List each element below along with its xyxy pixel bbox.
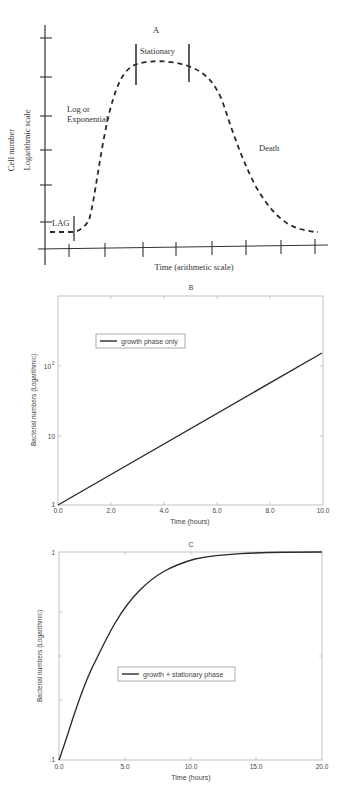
log-label-line1: Log or <box>67 104 90 114</box>
panel-a-y-label-line1: Cell number <box>6 129 16 171</box>
panel-c-legend: growth + stationary phase <box>118 667 235 681</box>
panel-b-ytick-100: 10 <box>44 363 52 370</box>
panel-b-xtick: 8.0 <box>265 507 274 514</box>
panel-b-legend: growth phase only <box>96 334 185 348</box>
panel-b-growth-phase: B growth phase only 1 10 10 2 0.0 2.0 4.… <box>30 284 330 526</box>
panel-b-frame <box>58 296 323 505</box>
panel-b-series-line <box>58 353 322 505</box>
panel-a-x-axis <box>38 245 328 249</box>
panel-b-x-label: Time (hours) <box>170 518 209 526</box>
figure: A LAG Log or Ex <box>0 0 349 798</box>
panel-b-ytick-10: 10 <box>48 433 56 440</box>
panel-b-ticks <box>58 296 323 505</box>
panel-c-ytick-high: 1 <box>51 549 55 556</box>
panel-b-ytick-100-exp: 2 <box>52 361 55 366</box>
panel-b-xtick: 4.0 <box>159 507 168 514</box>
panel-c-xtick: 15.0 <box>250 763 263 770</box>
panel-c-xtick: 0.0 <box>54 763 63 770</box>
panel-b-xtick: 2.0 <box>106 507 115 514</box>
panel-c-xtick: 10.0 <box>185 763 198 770</box>
panel-b-title: B <box>189 284 194 291</box>
panel-a-y-label-line2: Logarithmic scale <box>22 109 32 170</box>
panel-c-growth-stationary: C growth + stationary phase .1 1 0.0 5.0… <box>36 541 329 782</box>
lag-label: LAG <box>52 218 69 228</box>
panel-c-series-line <box>59 552 322 760</box>
panel-a-y-ticks <box>40 38 52 222</box>
panel-c-xtick: 5.0 <box>120 763 129 770</box>
stationary-label: Stationary <box>140 46 176 56</box>
panel-a-title: A <box>153 25 160 35</box>
panel-c-y-label: Bacterial numbers (Logarithmic) <box>36 610 44 702</box>
log-label-line2: Exponential <box>67 114 109 124</box>
panel-c-legend-label: growth + stationary phase <box>143 671 223 679</box>
death-label: Death <box>259 143 280 153</box>
panel-b-xtick: 10.0 <box>317 507 330 514</box>
panel-a-growth-curve: A LAG Log or Ex <box>6 25 328 272</box>
panel-c-ytick-low: .1 <box>50 756 56 763</box>
panel-b-xtick: 6.0 <box>212 507 221 514</box>
panel-b-y-label: Bacterial numbers (Logarithmic) <box>30 354 38 446</box>
panel-c-title: C <box>188 541 193 548</box>
panel-a-x-label: Time (arithmetic scale) <box>155 262 234 272</box>
panel-b-legend-label: growth phase only <box>121 338 178 346</box>
panel-c-xtick: 20.0 <box>316 763 329 770</box>
panel-b-xtick: 0.0 <box>53 507 62 514</box>
panel-c-x-label: Time (hours) <box>171 774 210 782</box>
